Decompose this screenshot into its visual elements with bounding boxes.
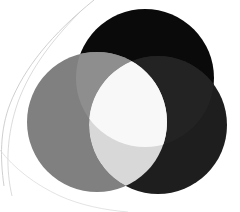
figure-canvas: Three overlapping circles Venn-style arr…: [0, 0, 240, 212]
circles-diagram: [0, 0, 240, 212]
